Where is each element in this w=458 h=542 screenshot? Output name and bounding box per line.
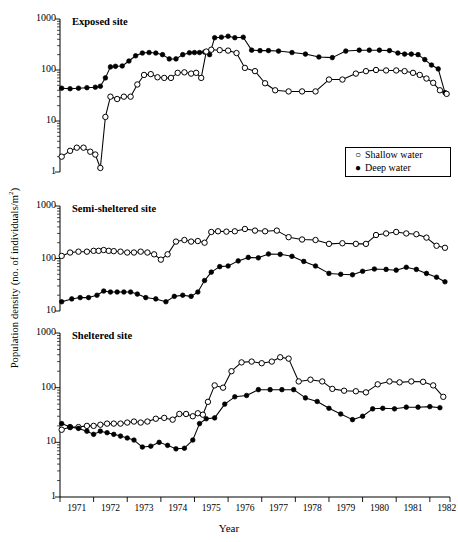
data-point-1-shallow (262, 229, 267, 234)
data-point-0-deep (98, 84, 103, 89)
y-tick-label-2-0: 1000 (18, 326, 56, 337)
data-point-2-deep (327, 406, 332, 411)
data-point-0-deep (120, 64, 125, 69)
data-point-0-deep (402, 52, 407, 57)
data-point-1-shallow (202, 240, 207, 245)
data-point-1-deep (313, 264, 318, 269)
data-point-2-shallow (249, 359, 254, 364)
series-line-1-deep-water (62, 254, 445, 302)
data-point-0-deep (174, 57, 179, 62)
data-point-0-deep (226, 34, 231, 39)
data-point-1-shallow (125, 250, 130, 255)
data-point-0-deep (241, 35, 246, 40)
data-point-1-deep (128, 290, 133, 295)
data-point-0-shallow (175, 70, 180, 75)
data-point-0-deep (233, 35, 238, 40)
data-point-1-shallow (224, 229, 229, 234)
data-point-1-shallow (340, 241, 345, 246)
data-point-0-deep (212, 35, 217, 40)
data-point-0-deep (396, 51, 401, 56)
data-point-1-shallow (313, 237, 318, 242)
y-tick-label-1-1: 100 (18, 252, 56, 263)
data-point-0-deep (167, 57, 172, 62)
data-point-1-deep (266, 252, 271, 257)
data-point-2-deep (392, 407, 397, 412)
data-point-2-shallow (91, 423, 96, 428)
data-point-0-shallow (155, 75, 160, 80)
data-point-0-shallow (410, 70, 415, 75)
data-point-0-deep (422, 57, 427, 62)
panel-title-1: Semi-sheltered site (72, 203, 156, 214)
data-point-0-deep (387, 48, 392, 53)
data-point-2-shallow (145, 419, 150, 424)
data-point-2-deep (315, 399, 320, 404)
data-point-2-shallow (259, 361, 264, 366)
data-point-0-deep (416, 52, 421, 57)
data-point-1-deep (209, 270, 214, 275)
data-point-1-deep (434, 275, 439, 280)
data-point-0-deep (367, 48, 372, 53)
data-point-0-shallow (272, 88, 277, 93)
data-point-2-deep (191, 438, 196, 443)
data-point-1-deep (414, 267, 419, 272)
data-point-1-deep (86, 295, 91, 300)
data-point-1-deep (424, 271, 429, 276)
data-point-1-shallow (101, 247, 106, 252)
data-point-2-shallow (131, 419, 136, 424)
data-point-1-shallow (299, 237, 304, 242)
data-point-0-shallow (81, 145, 86, 150)
data-point-1-shallow (232, 229, 237, 234)
data-point-1-deep (443, 279, 448, 284)
data-point-2-shallow (320, 379, 325, 384)
data-point-2-shallow (353, 389, 358, 394)
y-tick-label-0-3: 1 (18, 165, 56, 176)
panel-title-0: Exposed site (72, 16, 128, 27)
data-point-2-deep (197, 421, 202, 426)
data-point-0-shallow (141, 72, 146, 77)
data-point-1-shallow (414, 232, 419, 237)
data-point-1-deep (202, 278, 207, 283)
data-point-1-deep (154, 297, 159, 302)
y-tick-label-2-1: 100 (18, 381, 56, 392)
data-point-1-shallow (195, 238, 200, 243)
data-point-2-deep (132, 438, 137, 443)
data-point-0-deep (59, 86, 64, 91)
data-point-0-shallow (93, 152, 98, 157)
data-point-2-shallow (397, 380, 402, 385)
data-point-0-shallow (417, 72, 422, 77)
data-point-0-deep (180, 52, 185, 57)
data-point-1-shallow (215, 229, 220, 234)
data-point-1-deep (256, 256, 261, 261)
legend-item-deep: ● Deep water (346, 161, 450, 174)
data-point-1-shallow (394, 229, 399, 234)
data-point-1-shallow (96, 248, 101, 253)
data-point-2-deep (165, 443, 170, 448)
data-point-1-shallow (424, 235, 429, 240)
data-point-1-shallow (188, 239, 193, 244)
data-point-2-deep (105, 430, 110, 435)
data-point-2-shallow (98, 422, 103, 427)
data-point-2-deep (360, 414, 365, 419)
data-point-2-shallow (162, 415, 167, 420)
legend-label-shallow: Shallow water (365, 149, 423, 160)
y-tick-label-0-1: 100 (18, 63, 56, 74)
data-point-1-deep (69, 297, 74, 302)
data-point-1-deep (189, 294, 194, 299)
data-point-0-shallow (242, 65, 247, 70)
data-point-1-shallow (158, 257, 163, 262)
data-point-1-deep (301, 259, 306, 264)
data-point-1-deep (338, 272, 343, 277)
filled-circle-icon: ● (351, 161, 365, 174)
data-point-1-shallow (274, 228, 279, 233)
data-point-0-deep (127, 59, 132, 64)
data-point-2-deep (428, 404, 433, 409)
data-point-1-deep (360, 269, 365, 274)
data-point-2-deep (350, 417, 355, 422)
data-point-0-deep (68, 86, 73, 91)
x-tick-label-11: 1982 (427, 503, 458, 513)
data-point-1-shallow (434, 243, 439, 248)
data-point-1-shallow (373, 232, 378, 237)
data-point-2-deep (404, 405, 409, 410)
data-point-0-shallow (59, 154, 64, 159)
data-point-2-shallow (363, 390, 368, 395)
